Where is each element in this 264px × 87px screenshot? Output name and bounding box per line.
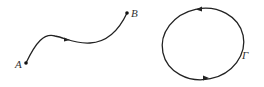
point-b	[125, 11, 129, 15]
label-a: A	[15, 59, 22, 70]
point-a	[24, 61, 28, 65]
closed-curve-gamma	[156, 1, 251, 87]
label-gamma: Γ	[242, 50, 248, 61]
curve-ab	[26, 13, 127, 63]
diagram: A B Γ	[0, 0, 264, 87]
label-b: B	[131, 8, 138, 19]
